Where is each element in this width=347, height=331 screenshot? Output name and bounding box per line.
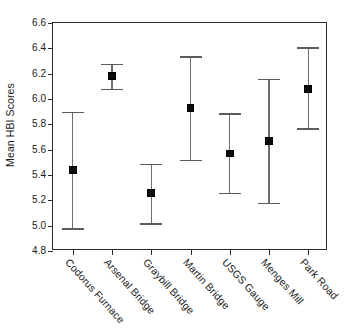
x-axis-tick-mark: [269, 249, 270, 255]
error-bar-lower-cap: [219, 193, 241, 195]
error-bar-upper-cap: [258, 79, 280, 81]
x-axis-tick-mark: [73, 249, 74, 255]
error-bar-upper-cap: [219, 113, 241, 115]
error-bar-upper-cap: [101, 64, 123, 66]
error-bar-upper-cap: [180, 56, 202, 58]
data-point-marker: [147, 189, 155, 197]
error-bar-lower-cap: [297, 128, 319, 130]
data-point-marker: [69, 166, 77, 174]
x-axis-tick-label: Park Road: [298, 256, 341, 302]
error-bar-chart: Mean HBI Scores 4.85.05.25.45.65.86.06.2…: [0, 0, 347, 331]
y-axis-title: Mean HBI Scores: [2, 0, 18, 250]
error-bar-lower-cap: [258, 203, 280, 205]
x-axis-tick-label-group: Codorus FurnaceArsenal BridgeGraybill Br…: [52, 256, 327, 331]
data-point-marker: [226, 150, 234, 158]
y-axis-tick-label: 5.6: [20, 143, 46, 154]
y-axis-tick-label: 5.0: [20, 219, 46, 230]
y-axis-tick-mark: [48, 251, 53, 252]
data-point-marker: [108, 72, 116, 80]
y-axis-tick-label: 5.2: [20, 194, 46, 205]
x-axis-tick-mark: [308, 249, 309, 255]
error-bar-lower-cap: [101, 89, 123, 91]
y-axis-tick-mark: [48, 175, 53, 176]
y-axis-tick-label: 4.8: [20, 245, 46, 256]
y-axis-title-text: Mean HBI Scores: [4, 83, 16, 167]
y-axis-tick-mark: [48, 99, 53, 100]
data-point-marker: [265, 137, 273, 145]
y-axis-tick-mark: [48, 150, 53, 151]
x-axis-tick-mark: [230, 249, 231, 255]
y-axis-tick-label: 5.8: [20, 118, 46, 129]
y-axis-tick-mark: [48, 74, 53, 75]
y-axis-tick-mark: [48, 124, 53, 125]
y-axis-tick-label: 6.2: [20, 67, 46, 78]
error-bar-lower-cap: [140, 223, 162, 225]
y-axis-tick-label: 5.4: [20, 169, 46, 180]
error-bar-lower-cap: [62, 228, 84, 230]
y-axis-tick-mark: [48, 23, 53, 24]
y-axis-tick-label: 6.4: [20, 42, 46, 53]
error-bar-upper-cap: [297, 47, 319, 49]
y-axis-tick-label: 6.0: [20, 93, 46, 104]
error-bar-upper-cap: [140, 164, 162, 166]
y-axis-tick-label-group: 4.85.05.25.45.65.86.06.26.46.6: [18, 0, 46, 331]
plot-area: [52, 22, 327, 250]
x-axis-tick-mark: [191, 249, 192, 255]
error-bar-lower-cap: [180, 160, 202, 162]
y-axis-tick-mark: [48, 48, 53, 49]
error-bar-upper-cap: [62, 112, 84, 114]
data-point-marker: [304, 85, 312, 93]
y-axis-tick-mark: [48, 200, 53, 201]
x-axis-tick-mark: [112, 249, 113, 255]
y-axis-tick-label: 6.6: [20, 17, 46, 28]
data-point-marker: [187, 104, 195, 112]
x-axis-tick-mark: [151, 249, 152, 255]
y-axis-tick-mark: [48, 226, 53, 227]
